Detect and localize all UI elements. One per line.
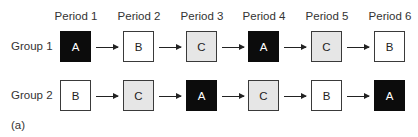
group2-period5-box: B — [311, 80, 342, 111]
treatment-letter: B — [323, 90, 331, 102]
period-label-4: Period 4 — [232, 10, 296, 22]
group1-period6-box: B — [374, 31, 405, 62]
period-label-5: Period 5 — [295, 10, 359, 22]
group1-period4-box: A — [248, 31, 279, 62]
group1-period3-box: C — [186, 31, 217, 62]
group2-period2-box: C — [123, 80, 154, 111]
treatment-letter: B — [72, 90, 80, 102]
period-label-6: Period 6 — [358, 10, 418, 22]
period-label-1: Period 1 — [44, 10, 108, 22]
treatment-letter: A — [198, 90, 206, 102]
treatment-letter: B — [386, 41, 394, 53]
group1-period5-box: C — [311, 31, 342, 62]
arrow-icon — [96, 47, 118, 48]
treatment-letter: A — [72, 41, 80, 53]
group1-period2-box: B — [123, 31, 154, 62]
group1-period1-box: A — [60, 31, 91, 62]
group2-period4-box: C — [248, 80, 279, 111]
arrow-icon — [159, 96, 181, 97]
treatment-letter: C — [197, 41, 205, 53]
treatment-letter: C — [134, 90, 142, 102]
arrow-icon — [284, 47, 306, 48]
period-label-3: Period 3 — [170, 10, 234, 22]
treatment-letter: C — [259, 90, 267, 102]
arrow-icon — [284, 96, 306, 97]
arrow-icon — [347, 96, 369, 97]
period-label-2: Period 2 — [107, 10, 171, 22]
treatment-letter: A — [386, 90, 394, 102]
arrow-icon — [222, 96, 244, 97]
treatment-letter: A — [260, 41, 268, 53]
group2-period3-box: A — [186, 80, 217, 111]
treatment-letter: C — [322, 41, 330, 53]
group2-period6-box: A — [374, 80, 405, 111]
arrow-icon — [96, 96, 118, 97]
treatment-letter: B — [135, 41, 143, 53]
arrow-icon — [347, 47, 369, 48]
arrow-icon — [222, 47, 244, 48]
group-label-1: Group 1 — [11, 40, 53, 52]
group2-period1-box: B — [60, 80, 91, 111]
group-label-2: Group 2 — [11, 89, 53, 101]
figure-caption: (a) — [11, 119, 25, 131]
arrow-icon — [159, 47, 181, 48]
